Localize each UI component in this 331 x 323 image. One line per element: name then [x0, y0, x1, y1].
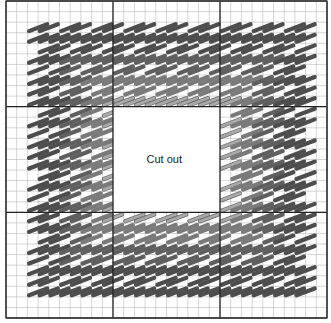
cutout-label: Cut out	[147, 153, 182, 165]
